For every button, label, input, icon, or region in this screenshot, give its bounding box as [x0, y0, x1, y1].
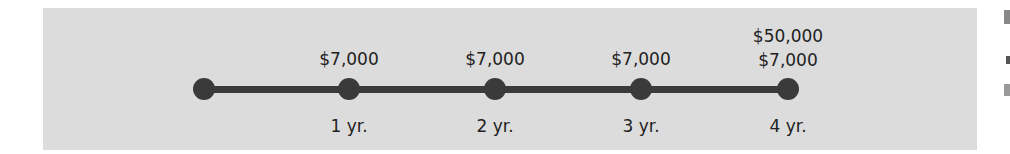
period-label-2: 2 yr.	[435, 116, 555, 136]
cashflow-label-1: $7,000	[289, 49, 409, 69]
edge-artifact	[1004, 84, 1010, 96]
timeline-point-4	[777, 78, 799, 100]
edge-artifact	[1006, 56, 1010, 64]
cashflow-label-2: $7,000	[435, 49, 555, 69]
cashflow-label-3: $7,000	[581, 49, 701, 69]
period-label-1: 1 yr.	[289, 116, 409, 136]
cashflow-label-4: $7,000	[728, 50, 848, 70]
edge-artifact	[1004, 10, 1010, 24]
timeline-point-0	[193, 78, 215, 100]
timeline-point-1	[338, 78, 360, 100]
timeline-point-3	[630, 78, 652, 100]
timeline-point-2	[484, 78, 506, 100]
face-value-label-4: $50,000	[728, 26, 848, 46]
period-label-4: 4 yr.	[728, 116, 848, 136]
period-label-3: 3 yr.	[581, 116, 701, 136]
